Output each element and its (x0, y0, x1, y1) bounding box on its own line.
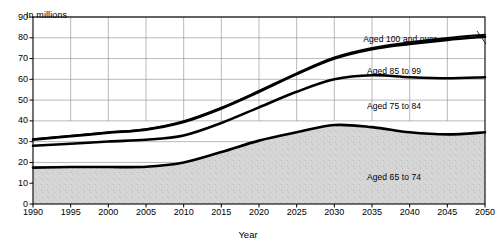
y-axis-unit-label: In millions (26, 10, 67, 20)
y-tick-label-20: 20 (6, 157, 28, 167)
x-tick-label-2035: 2035 (352, 207, 392, 217)
x-tick-label-1995: 1995 (51, 207, 91, 217)
series-label-aged-85-to-99: Aged 85 to 99 (367, 66, 421, 76)
y-tick-label-40: 40 (6, 115, 28, 125)
series-label-aged-75-to-84: Aged 75 to 84 (367, 101, 421, 111)
y-tick-label-30: 30 (6, 136, 28, 146)
x-tick-label-2040: 2040 (390, 207, 430, 217)
x-tick-label-1990: 1990 (13, 207, 53, 217)
y-tick-label-90: 90 (6, 12, 28, 22)
x-tick-label-2015: 2015 (201, 207, 241, 217)
x-tick-label-2020: 2020 (239, 207, 279, 217)
chart-figure: In millions 0102030405060708090 19901995… (0, 0, 497, 250)
x-tick-label-2030: 2030 (314, 207, 354, 217)
x-tick-label-2010: 2010 (164, 207, 204, 217)
x-tick-label-2050: 2050 (465, 207, 497, 217)
x-tick-label-2045: 2045 (427, 207, 467, 217)
x-tick-label-2000: 2000 (88, 207, 128, 217)
x-tick-label-2025: 2025 (277, 207, 317, 217)
x-axis-title: Year (208, 229, 288, 240)
y-tick-label-10: 10 (6, 178, 28, 188)
y-tick-label-50: 50 (6, 95, 28, 105)
series-label-aged-100-and-over: Aged 100 and over (363, 34, 437, 44)
y-tick-label-60: 60 (6, 74, 28, 84)
y-tick-label-80: 80 (6, 32, 28, 42)
y-tick-label-70: 70 (6, 53, 28, 63)
x-tick-label-2005: 2005 (126, 207, 166, 217)
series-label-aged-65-to-74: Aged 65 to 74 (367, 172, 421, 182)
